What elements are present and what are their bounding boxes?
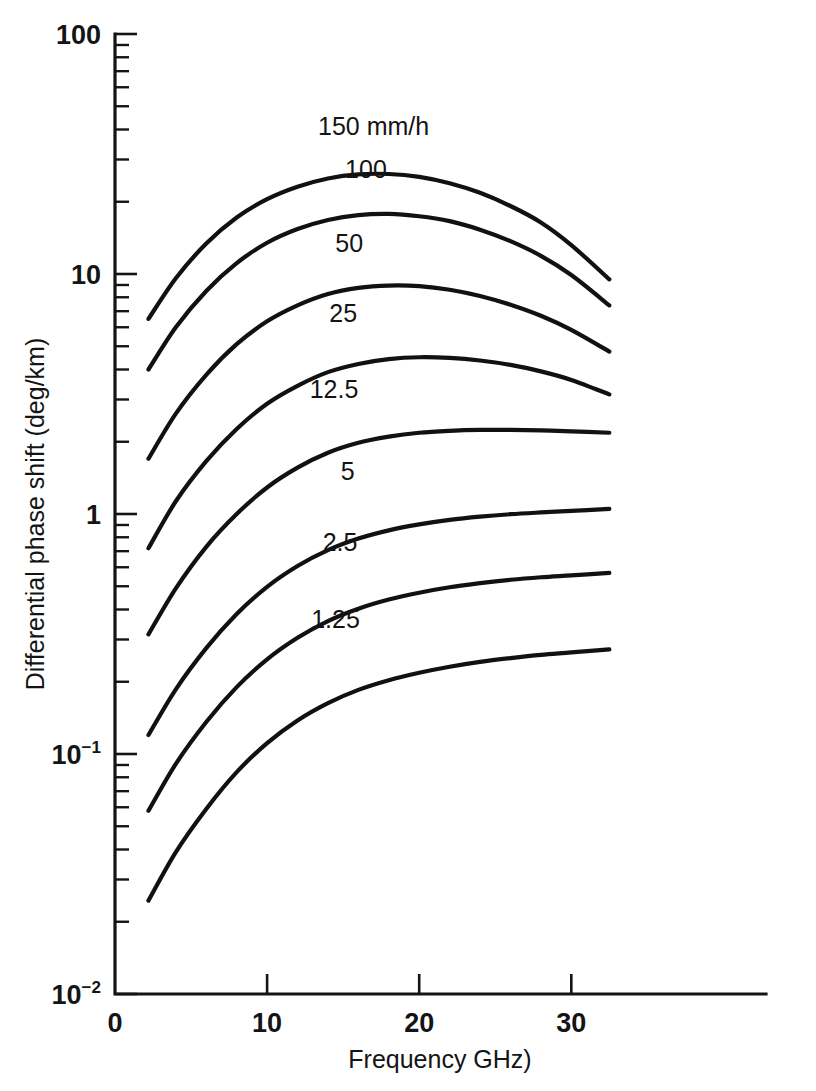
curve-1.25: [148, 649, 609, 900]
x-axis-major-ticks: [267, 974, 571, 994]
curve-label-100: 100: [345, 155, 387, 183]
curve-25: [148, 357, 609, 548]
differential-phase-shift-chart: 150 mm/h100502512.552.51.25 10010110−110…: [0, 0, 816, 1091]
y-tick-label-1: 10: [71, 260, 101, 290]
curve-100: [148, 214, 609, 370]
curve-150: [148, 174, 609, 319]
x-tick-label-3: 30: [556, 1008, 586, 1038]
curve-5: [148, 509, 609, 735]
curve-label-1.25: 1.25: [311, 605, 360, 633]
x-tick-label-0: 0: [107, 1008, 122, 1038]
y-axis-minor-ticks: [115, 45, 129, 922]
axis-frame: [115, 34, 766, 994]
x-tick-label-1: 10: [252, 1008, 282, 1038]
x-axis-title: Frequency GHz): [348, 1045, 531, 1073]
curve-label-12.5: 12.5: [310, 375, 359, 403]
y-tick-label-3: 10−1: [52, 738, 101, 770]
curve-label-150: 150 mm/h: [318, 112, 429, 140]
curve-2.5: [148, 573, 609, 811]
x-axis-tick-labels: 0102030: [107, 1008, 586, 1038]
x-tick-label-2: 20: [404, 1008, 434, 1038]
y-tick-label-4: 10−2: [52, 978, 101, 1010]
curve-label-5: 5: [341, 457, 355, 485]
y-axis-tick-labels: 10010110−110−2: [52, 20, 101, 1010]
curve-label-25: 25: [329, 299, 357, 327]
y-axis-title: Differential phase shift (deg/km): [21, 338, 49, 690]
y-tick-label-2: 1: [86, 500, 101, 530]
chart-figure: 150 mm/h100502512.552.51.25 10010110−110…: [0, 0, 816, 1091]
data-curves: [148, 174, 609, 901]
y-tick-label-0: 100: [56, 20, 101, 50]
curve-label-2.5: 2.5: [323, 528, 358, 556]
curve-label-50: 50: [335, 229, 363, 257]
